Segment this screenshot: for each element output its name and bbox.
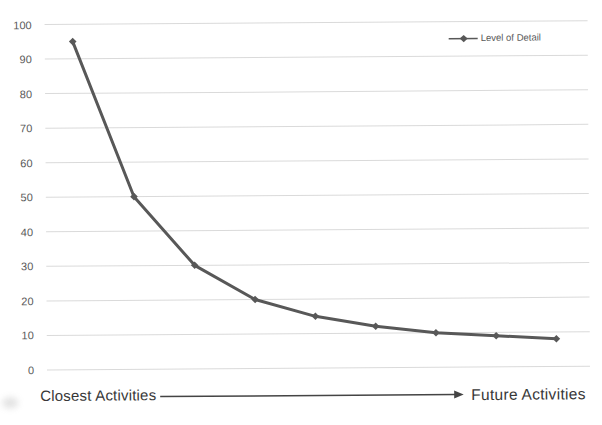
legend-label: Level of Detail: [481, 31, 541, 45]
gridline: [45, 90, 588, 94]
data-point-marker: [492, 332, 500, 340]
gridline: [45, 124, 588, 128]
data-point-marker: [372, 322, 380, 330]
data-point-marker: [432, 329, 440, 337]
scan-smudge: [2, 397, 18, 408]
data-point-marker: [69, 38, 77, 46]
x-axis-label-future: Future Activities: [471, 385, 586, 403]
scanned-chart-page: 0102030405060708090100 Level of Detail C…: [0, 0, 602, 425]
gridline: [47, 297, 590, 301]
level-of-detail-line: [73, 38, 557, 342]
x-axis-arrow: [160, 390, 464, 400]
data-point-marker: [553, 335, 561, 343]
gridline: [46, 228, 589, 232]
gridline: [46, 263, 589, 267]
gridline: [45, 21, 588, 25]
data-point-marker: [312, 312, 320, 320]
x-axis-label-closest: Closest Activities: [40, 386, 156, 404]
gridline: [45, 55, 588, 59]
gridline: [47, 366, 590, 370]
gridline: [46, 159, 589, 163]
legend-line-marker-icon: [449, 35, 478, 42]
line-chart: [0, 0, 602, 425]
gridline: [46, 193, 589, 197]
